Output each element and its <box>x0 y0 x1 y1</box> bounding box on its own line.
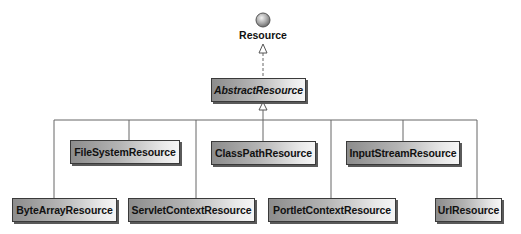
class-input-stream-resource[interactable]: InputStreamResource <box>346 141 460 165</box>
realization-arrow-icon <box>259 44 267 53</box>
class-class-path-resource[interactable]: ClassPathResource <box>211 141 316 165</box>
class-abstract-resource[interactable]: AbstractResource <box>211 78 306 102</box>
class-servlet-context-resource[interactable]: ServletContextResource <box>128 198 255 222</box>
generalization-arrow-icon <box>259 102 267 110</box>
class-url-resource[interactable]: UrlResource <box>435 198 502 222</box>
interface-resource-label: Resource <box>233 29 293 41</box>
class-file-system-resource[interactable]: FileSystemResource <box>70 140 180 164</box>
uml-diagram: Resource AbstractResource FileSystemReso… <box>0 0 521 234</box>
class-portlet-context-resource[interactable]: PortletContextResource <box>268 198 396 222</box>
interface-lollipop-icon <box>256 13 270 27</box>
class-byte-array-resource[interactable]: ByteArrayResource <box>12 198 117 222</box>
